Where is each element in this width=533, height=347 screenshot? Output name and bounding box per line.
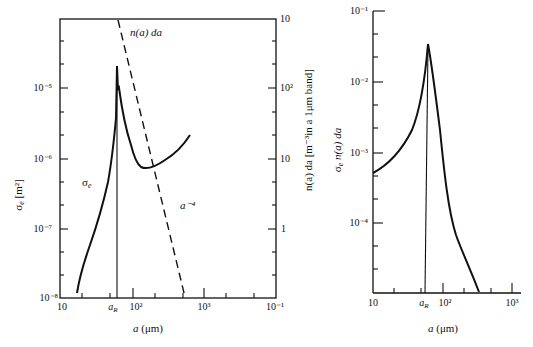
right-panel-x-ticks <box>394 283 512 293</box>
right-y-axis-title: n(a) da [m⁻³in a 1μm band] <box>302 69 315 191</box>
left-y-label-1e-8: 10⁻⁸ <box>40 292 59 303</box>
right-panel-x-label-aR: aR <box>419 297 429 310</box>
right-y-ticks <box>268 41 276 275</box>
right-y-label-1e-1: 10⁻¹ <box>266 301 284 312</box>
right-aR-line <box>425 45 428 293</box>
right-y-label-top: 10 <box>280 13 290 24</box>
right-panel-y-axis-title: σe n(a) da <box>331 127 345 172</box>
right-panel-x-label-1000: 10³ <box>506 297 519 308</box>
sigma-e-curve <box>77 66 190 293</box>
left-x-ticks <box>82 288 254 298</box>
annotation-n-a-da: n(a) da <box>130 26 163 39</box>
right-panel-x-label-10: 10 <box>368 297 378 308</box>
right-y-label-1e2: 10² <box>280 82 293 93</box>
left-x-label-100: 10² <box>130 301 143 312</box>
left-y-label-1e-7: 10⁻⁷ <box>34 223 53 234</box>
right-y-label-10: 10 <box>280 153 290 164</box>
left-chart: 10⁻⁵ 10⁻⁶ 10⁻⁷ 10⁻⁸ 10 10² 10 1 10⁻¹ 10 … <box>12 13 315 335</box>
n-a-da-dashed-line <box>118 20 185 297</box>
right-y-label-1: 1 <box>281 223 286 234</box>
left-x-label-10: 10 <box>57 301 67 312</box>
right-chart: 10⁻¹ 10⁻² 10⁻³ 10⁻⁴ 10 aR 10² 10³ a (μm)… <box>331 5 521 335</box>
left-x-label-1000: 10³ <box>198 301 211 312</box>
right-panel-y-label-1e-1: 10⁻¹ <box>350 5 368 16</box>
left-x-axis-title: a (μm) <box>133 322 163 335</box>
left-y-label-1e-5: 10⁻⁵ <box>34 82 53 93</box>
left-y-ticks <box>60 41 68 275</box>
left-y-label-1e-6: 10⁻⁶ <box>34 153 53 164</box>
left-y-axis-title: σe [m²] <box>12 179 26 210</box>
right-panel-y-label-1e-2: 10⁻² <box>350 76 368 87</box>
right-panel-y-label-1e-3: 10⁻³ <box>350 147 368 158</box>
right-panel-x-label-100: 10² <box>439 297 452 308</box>
annotation-a-minus-4: a⁻⁴ <box>180 199 196 211</box>
right-panel-y-ticks <box>373 11 385 269</box>
right-panel-x-axis-title: a (μm) <box>428 322 458 335</box>
annotation-sigma-e: σe <box>82 176 92 190</box>
left-x-label-aR: aR <box>108 301 118 314</box>
figure: 10⁻⁵ 10⁻⁶ 10⁻⁷ 10⁻⁸ 10 10² 10 1 10⁻¹ 10 … <box>0 0 533 347</box>
right-panel-y-label-1e-4: 10⁻⁴ <box>350 217 369 228</box>
